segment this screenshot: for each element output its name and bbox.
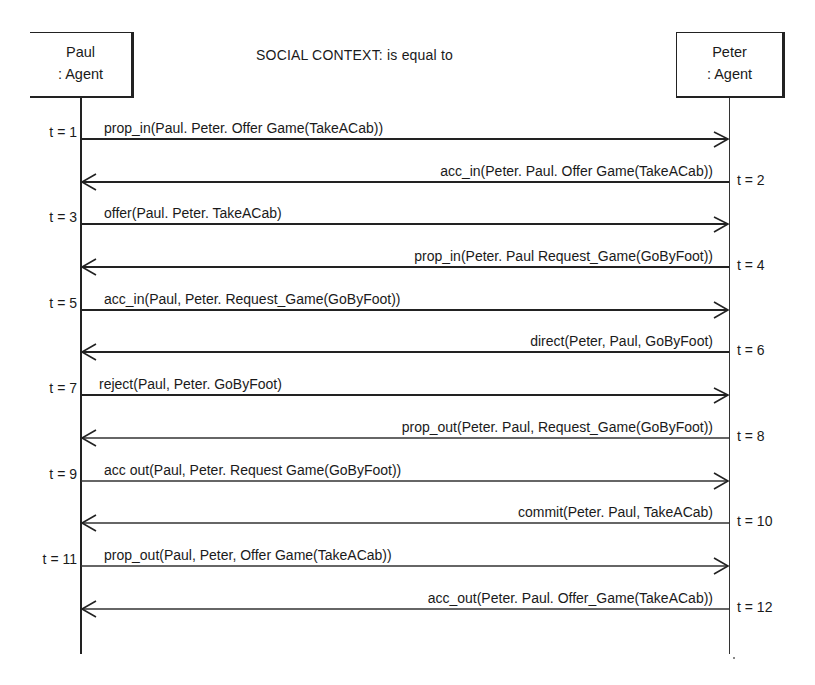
time-label: t = 6 [737,342,765,358]
message-label: acc out(Paul, Peter. Request Game(GoByFo… [104,462,401,478]
message-label: acc_in(Paul, Peter. Request_Game(GoByFoo… [104,291,400,307]
message-label: commit(Peter. Paul, TakeACab) [518,504,713,520]
time-label: t = 8 [737,428,765,444]
message-label: reject(Paul, Peter. GoByFoot) [99,376,282,392]
time-label: t = 2 [737,172,765,188]
time-label: t = 12 [737,599,772,615]
scan-artifact [733,657,735,659]
message-label: direct(Peter, Paul, GoByFoot) [530,333,713,349]
message-label: acc_in(Peter. Paul. Offer Game(TakeACab)… [440,163,713,179]
time-label: t = 9 [49,466,77,482]
message-label: prop_in(Peter. Paul Request_Game(GoByFoo… [414,248,713,264]
time-label: t = 3 [49,209,77,225]
message-label: offer(Paul. Peter. TakeACab) [104,205,282,221]
time-label: t = 4 [737,257,765,273]
message-label: prop_in(Paul. Peter. Offer Game(TakeACab… [104,120,383,136]
time-label: t = 10 [737,513,772,529]
message-label: prop_out(Peter. Paul, Request_Game(GoByF… [402,419,713,435]
time-label: t = 5 [49,295,77,311]
message-label: acc_out(Peter. Paul. Offer_Game(TakeACab… [428,590,713,606]
message-label: prop_out(Paul, Peter, Offer Game(TakeACa… [104,547,392,563]
time-label: t = 11 [43,551,77,567]
time-label: t = 7 [49,380,77,396]
time-label: t = 1 [49,124,77,140]
